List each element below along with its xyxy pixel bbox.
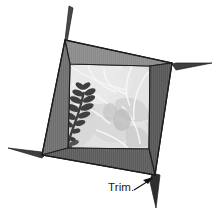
photo-shadow-3 (103, 103, 117, 121)
diagram-canvas: Trim. (0, 0, 219, 212)
frame-trim-figure: Trim. (0, 0, 219, 212)
foliage-photo (60, 58, 160, 156)
trim-label: Trim. (108, 181, 134, 193)
